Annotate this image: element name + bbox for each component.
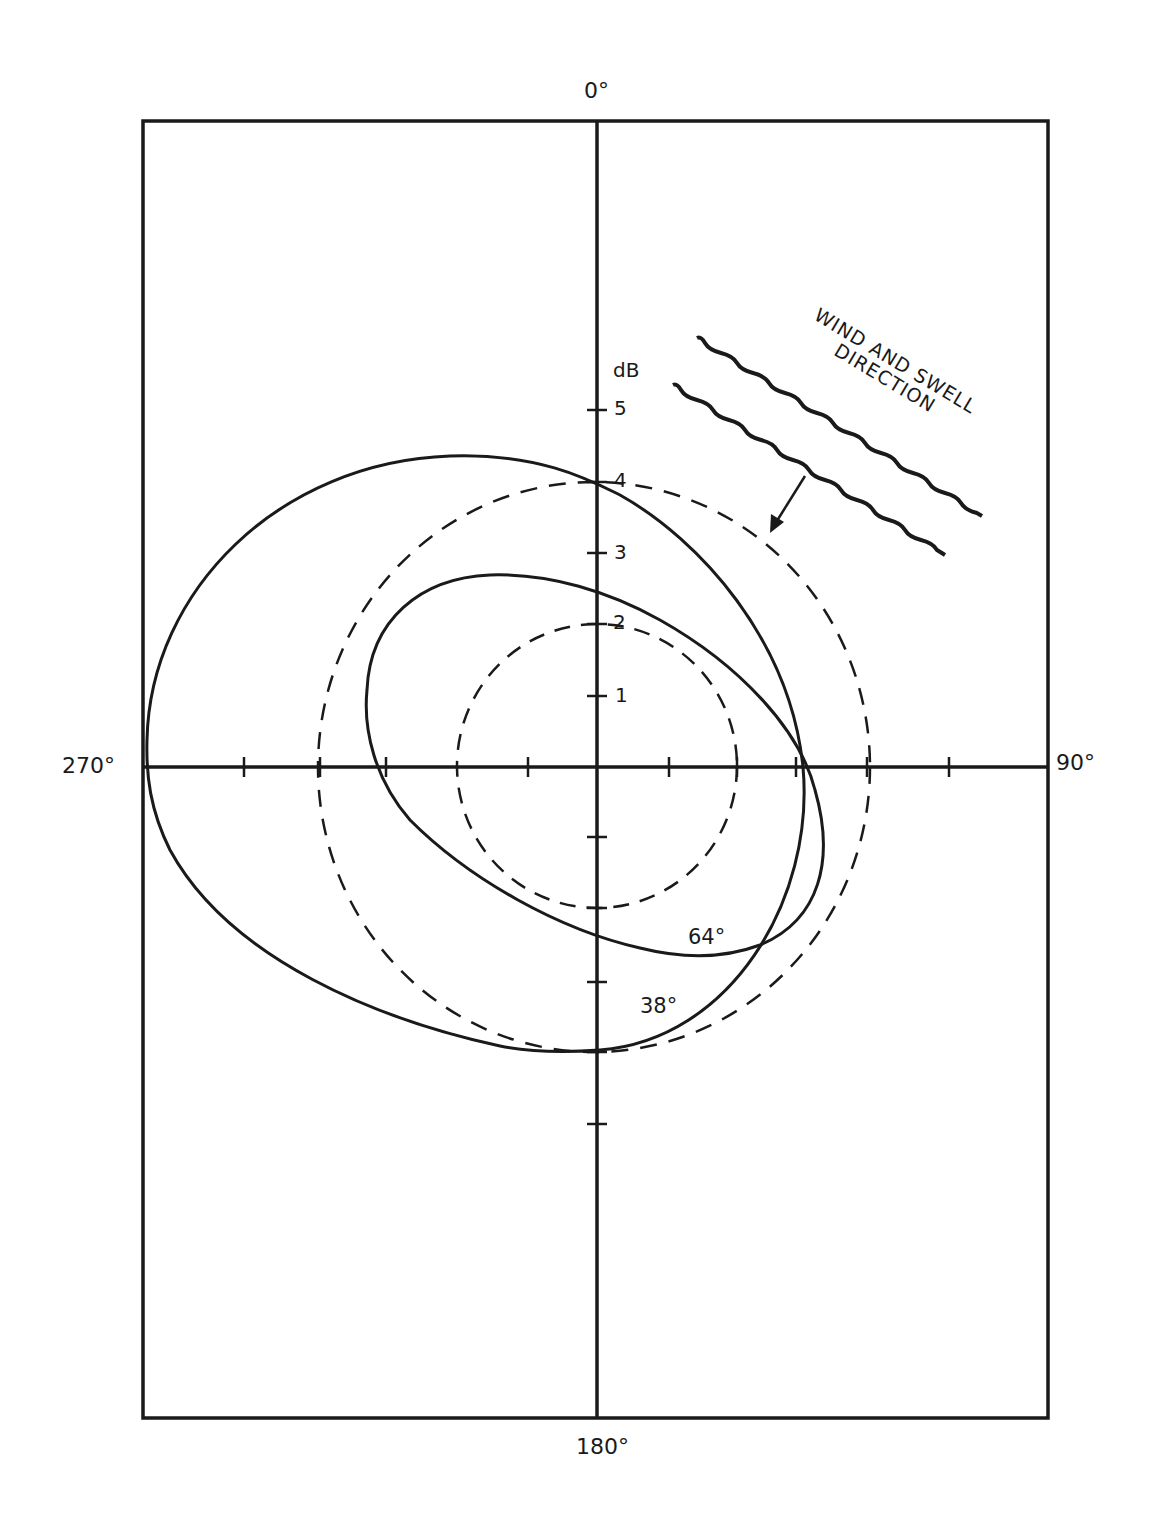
polar-pattern-chart bbox=[0, 0, 1168, 1535]
angle-label-270: 270° bbox=[62, 755, 115, 777]
curve-38-deg bbox=[147, 456, 804, 1052]
tick-label-2: 2 bbox=[613, 612, 626, 632]
curve-label-64: 64° bbox=[688, 927, 725, 948]
unit-label-db: dB bbox=[613, 360, 639, 380]
tick-label-4: 4 bbox=[614, 470, 627, 490]
tick-label-3: 3 bbox=[614, 542, 627, 562]
curve-label-38: 38° bbox=[640, 996, 677, 1017]
angle-label-90: 90° bbox=[1056, 752, 1095, 774]
tick-label-5: 5 bbox=[614, 398, 627, 418]
tick-label-1: 1 bbox=[615, 685, 628, 705]
direction-arrow-icon bbox=[770, 476, 805, 533]
angle-label-180: 180° bbox=[576, 1436, 629, 1458]
angle-label-0: 0° bbox=[584, 80, 609, 102]
